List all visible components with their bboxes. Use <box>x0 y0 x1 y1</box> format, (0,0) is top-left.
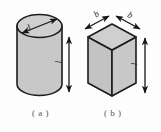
caption-b: ( b ) <box>104 108 122 118</box>
caption-a: ( a ) <box>32 108 49 118</box>
figure-container: d l b b l ( a ) ( b ) <box>0 0 161 132</box>
figure-svg <box>0 0 161 132</box>
cylinder-length-label: l <box>53 61 63 64</box>
prism-length-label: l <box>129 63 139 66</box>
prism-shape <box>88 24 136 96</box>
